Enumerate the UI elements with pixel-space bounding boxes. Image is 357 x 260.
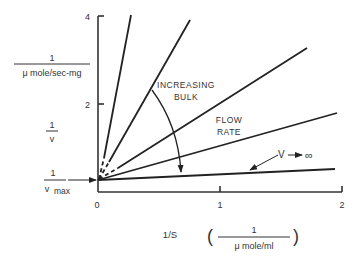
rate-label: RATE xyxy=(217,127,241,137)
flow-label: FLOW xyxy=(216,115,243,125)
lineweaver-burk-plot: 4 2 0 1 2 V ∞ INCREASING BULK FLOW RATE … xyxy=(0,0,357,260)
y-label-denominator: v xyxy=(50,134,55,144)
x-label: 1/S xyxy=(163,229,177,240)
y-unit-denominator: μ mole/sec-mg xyxy=(22,68,81,78)
x-tick-label-2: 2 xyxy=(339,200,344,210)
bulk-label: BULK xyxy=(174,92,198,102)
infinity-label: ∞ xyxy=(305,149,313,161)
x-unit-denominator: μ mole/ml xyxy=(234,241,273,251)
increasing-label: INCREASING xyxy=(157,80,215,90)
x-tick-label-0: 0 xyxy=(94,200,99,210)
x-label-open-paren: ( xyxy=(207,226,213,246)
vmax-numerator: 1 xyxy=(50,168,55,178)
line-1 xyxy=(104,15,131,158)
y-label-numerator: 1 xyxy=(49,120,54,130)
x-unit-numerator: 1 xyxy=(251,225,256,235)
vmax-denominator: v xyxy=(45,184,50,194)
y-unit-numerator: 1 xyxy=(49,53,54,63)
y-tick-label-2: 2 xyxy=(85,100,90,110)
x-label-close-paren: ) xyxy=(293,226,299,246)
v-infinity-pointer xyxy=(250,155,278,170)
x-tick-label-1: 1 xyxy=(217,200,222,210)
vmax-subscript: max xyxy=(54,186,71,196)
y-tick-label-4: 4 xyxy=(85,12,90,22)
line-2 xyxy=(109,20,190,162)
v-label: V xyxy=(278,149,285,160)
